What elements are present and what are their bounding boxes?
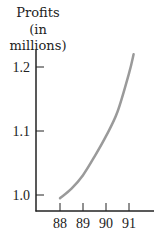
series-line-profits bbox=[60, 54, 134, 198]
ticks: 1.01.11.288899091 bbox=[13, 60, 137, 229]
y-tick-label-1.0: 1.0 bbox=[13, 188, 31, 203]
x-tick-label-89: 89 bbox=[76, 216, 90, 229]
axes bbox=[36, 50, 155, 212]
x-tick-label-91: 91 bbox=[122, 216, 136, 229]
x-tick-label-88: 88 bbox=[53, 216, 67, 229]
x-tick-label-90: 90 bbox=[99, 216, 113, 229]
y-tick-label-1.2: 1.2 bbox=[13, 60, 31, 75]
profits-chart: 1.01.11.288899091 bbox=[0, 0, 154, 229]
y-tick-label-1.1: 1.1 bbox=[13, 124, 31, 139]
series bbox=[60, 54, 134, 198]
